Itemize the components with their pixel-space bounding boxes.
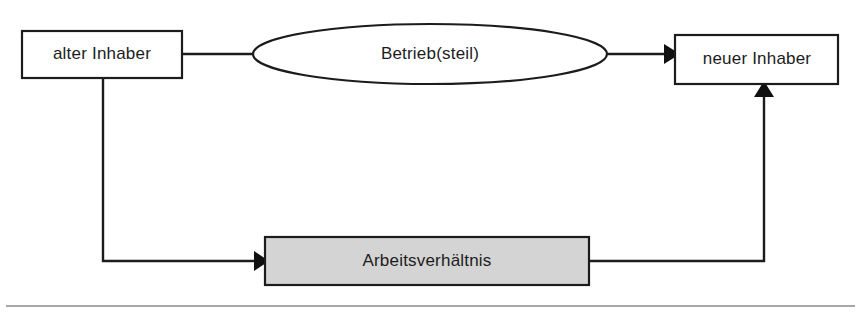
node-label-betrieb-steil: Betrieb(steil)	[381, 44, 479, 63]
node-label-alter-inhaber: alter Inhaber	[53, 44, 151, 63]
connector-betrieb-to-neuer-inhaber	[607, 44, 680, 64]
connector-line	[103, 78, 256, 261]
diagram-canvas: alter Inhaber Betrieb(steil) neuer Inhab…	[0, 0, 861, 314]
node-label-neuer-inhaber: neuer Inhaber	[703, 49, 812, 68]
node-arbeitsverhaeltnis[interactable]: Arbeitsverhältnis	[265, 237, 589, 285]
node-alter-inhaber[interactable]: alter Inhaber	[22, 31, 182, 78]
node-betrieb-steil[interactable]: Betrieb(steil)	[253, 24, 607, 84]
connector-line	[589, 95, 764, 261]
diagram-svg: alter Inhaber Betrieb(steil) neuer Inhab…	[0, 0, 861, 314]
connector-arbeitsverhaeltnis-to-neuer-inhaber	[589, 81, 774, 261]
node-neuer-inhaber[interactable]: neuer Inhaber	[675, 35, 838, 84]
connector-alter-inhaber-to-arbeitsverhaeltnis	[103, 78, 269, 271]
node-label-arbeitsverhaeltnis: Arbeitsverhältnis	[362, 251, 491, 270]
